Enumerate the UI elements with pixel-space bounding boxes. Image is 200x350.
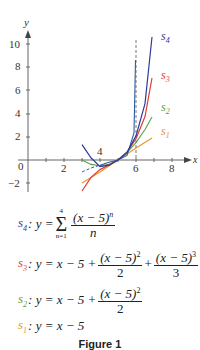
x-tick-2: 2 (61, 162, 67, 174)
equation-s4: s4 : y = 4 Σ n=1 (x − 5)n n (18, 208, 117, 240)
y-tick-neg2: −2 (8, 177, 20, 189)
taylor-polynomials-chart: y x 0 2 6 8 4 10 8 6 4 2 −2 s4 s3 s2 s1 (0, 0, 200, 215)
figure-caption: Figure 1 (0, 338, 200, 350)
fraction: (x − 5)n n (71, 208, 115, 240)
equation-s1: s1 : y = x − 5 (18, 317, 84, 335)
label-s1: s1 (161, 124, 170, 140)
y-tick-6: 6 (15, 84, 21, 96)
x-axis-label: x (192, 154, 198, 165)
x-tick-8: 8 (169, 162, 175, 174)
label-s4: s4 (161, 29, 170, 45)
label-s3: s3 (161, 68, 170, 84)
y-tick-4: 4 (15, 107, 21, 119)
x-axis-arrow-icon (184, 157, 192, 163)
y-axis-label: y (23, 16, 29, 28)
x-tick-6: 6 (133, 162, 139, 174)
origin-label: 0 (18, 160, 24, 172)
series-ln-dashed (82, 165, 100, 172)
y-tick-10: 10 (9, 38, 21, 50)
y-tick-2: 2 (15, 130, 21, 142)
summation: 4 Σ n=1 (55, 208, 67, 240)
point-label-4: 4 (97, 145, 103, 157)
label-s2: s2 (161, 100, 170, 116)
equation-s2: s2 : y = x − 5 + (x − 5)2 2 (18, 284, 144, 316)
y-tick-8: 8 (15, 60, 21, 72)
series-s4 (82, 37, 152, 167)
equation-s3: s3 : y = x − 5 + (x − 5)2 2 + (x − 5)3 3 (18, 248, 200, 280)
y-axis-arrow-icon (25, 30, 31, 38)
